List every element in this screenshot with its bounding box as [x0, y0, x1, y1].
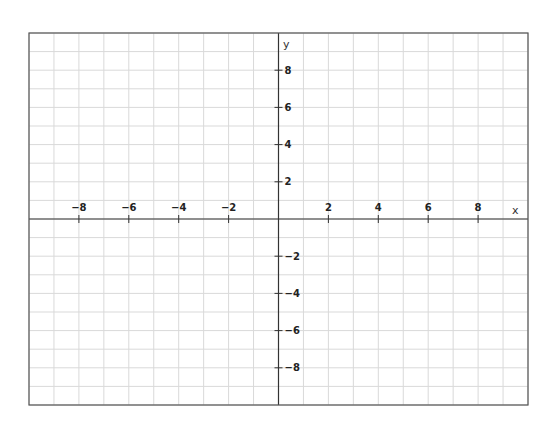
y-tick-label: 8 — [285, 65, 292, 76]
x-axis-label: x — [512, 204, 519, 217]
x-tick-label: 4 — [375, 202, 382, 213]
x-tick-label: −6 — [121, 202, 136, 213]
y-tick-label: −4 — [285, 288, 300, 299]
coordinate-plane: −8−6−4−22468−8−6−4−22468 x y — [0, 0, 552, 440]
x-tick-label: 2 — [325, 202, 332, 213]
x-tick-label: −8 — [71, 202, 86, 213]
y-tick-label: 6 — [285, 102, 292, 113]
y-tick-label: −8 — [285, 362, 300, 373]
x-tick-label: 6 — [425, 202, 432, 213]
y-axis-label: y — [283, 38, 290, 51]
y-tick-label: 4 — [285, 139, 292, 150]
x-tick-label: 8 — [475, 202, 482, 213]
y-tick-label: 2 — [285, 176, 292, 187]
y-tick-label: −6 — [285, 325, 300, 336]
x-tick-label: −2 — [221, 202, 236, 213]
x-tick-label: −4 — [171, 202, 186, 213]
y-tick-label: −2 — [285, 251, 300, 262]
